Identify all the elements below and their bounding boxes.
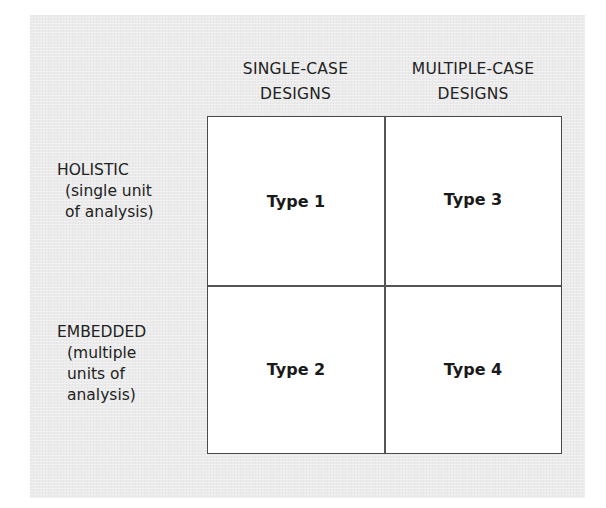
row-label-subtitle: analysis) [57,385,146,406]
column-header-multiple-case: MULTIPLE-CASE DESIGNS [384,57,562,107]
design-matrix: Type 1 Type 3 Type 2 Type 4 [207,116,562,454]
column-header-line: DESIGNS [207,82,384,107]
row-label-title: HOLISTIC [57,160,154,181]
row-label-holistic: HOLISTIC (single unit of analysis) [57,160,154,223]
row-label-subtitle: units of [57,364,146,385]
row-label-subtitle: (multiple [57,343,146,364]
row-label-subtitle: (single unit [57,181,154,202]
column-header-line: DESIGNS [384,82,562,107]
column-header-line: MULTIPLE-CASE [384,57,562,82]
cell-type-4: Type 4 [385,286,561,452]
column-header-single-case: SINGLE-CASE DESIGNS [207,57,384,107]
row-label-title: EMBEDDED [57,322,146,343]
cell-type-2: Type 2 [208,286,384,452]
column-header-line: SINGLE-CASE [207,57,384,82]
cell-type-1: Type 1 [208,117,384,285]
cell-type-3: Type 3 [385,117,561,281]
row-label-subtitle: of analysis) [57,202,154,223]
row-label-embedded: EMBEDDED (multiple units of analysis) [57,322,146,406]
